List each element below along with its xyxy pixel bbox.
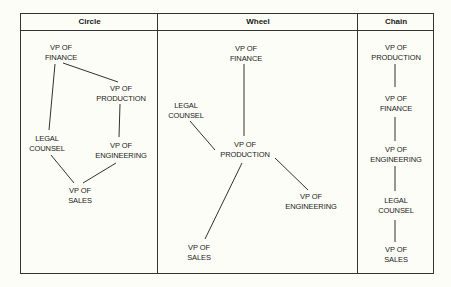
node-label-line: SALES [187,253,211,263]
edge-circle-production-engineering [119,104,120,137]
node-label-line: VP OF [45,43,77,53]
edge-wheel-production-sales [205,163,242,239]
node-label-line: VP OF [230,44,262,54]
wheel-node-finance: VP OF FINANCE [230,44,262,64]
node-label-line: COUNSEL [378,206,414,216]
node-label-line: PRODUCTION [371,53,420,63]
node-label-line: COUNSEL [29,144,65,154]
chain-node-legal: LEGAL COUNSEL [378,196,414,216]
node-label-line: FINANCE [230,54,262,64]
circle-node-engineering: VP OF ENGINEERING [95,141,146,161]
node-label-line: PRODUCTION [96,94,145,104]
node-label-line: ENGINEERING [370,155,421,165]
node-label-line: FINANCE [380,104,412,114]
node-label-line: SALES [384,255,408,265]
wheel-node-production: VP OF PRODUCTION [220,140,269,160]
node-label-line: FINANCE [45,53,77,63]
edge-circle-engineering-sales [83,163,116,183]
circle-node-finance: VP OF FINANCE [45,43,77,63]
edge-wheel-production-engineering [275,158,308,190]
node-label-line: VP OF [95,141,146,151]
node-label-line: VP OF [380,94,412,104]
node-label-line: VP OF [370,145,421,155]
node-label-line: VP OF [187,243,211,253]
chain-node-finance: VP OF FINANCE [380,94,412,114]
node-label-line: LEGAL [168,101,204,111]
node-label-line: VP OF [96,84,145,94]
node-label-line: LEGAL [29,134,65,144]
node-label-line: VP OF [371,43,420,53]
edge-wheel-legal-production [190,121,215,150]
node-label-line: VP OF [68,186,92,196]
circle-node-legal: LEGAL COUNSEL [29,134,65,154]
chain-node-production: VP OF PRODUCTION [371,43,420,63]
node-label-line: LEGAL [378,196,414,206]
node-label-line: COUNSEL [168,111,204,121]
node-label-line: VP OF [220,140,269,150]
edge-circle-finance-legal [49,64,55,130]
node-label-line: PRODUCTION [220,150,269,160]
chain-node-sales: VP OF SALES [384,245,408,265]
circle-node-sales: VP OF SALES [68,186,92,206]
edge-circle-finance-production [63,63,118,82]
wheel-node-sales: VP OF SALES [187,243,211,263]
node-label-line: VP OF [384,245,408,255]
wheel-node-engineering: VP OF ENGINEERING [285,192,336,212]
node-label-line: ENGINEERING [95,151,146,161]
node-label-line: SALES [68,196,92,206]
node-label-line: VP OF [285,192,336,202]
wheel-node-legal: LEGAL COUNSEL [168,101,204,121]
node-label-line: ENGINEERING [285,202,336,212]
edge-circle-legal-sales [51,155,74,183]
chain-node-engineering: VP OF ENGINEERING [370,145,421,165]
circle-node-production: VP OF PRODUCTION [96,84,145,104]
